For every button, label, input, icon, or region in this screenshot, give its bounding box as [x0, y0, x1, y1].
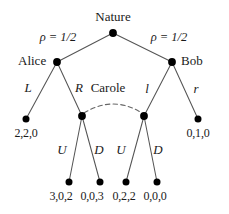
label-action-l: l [145, 82, 149, 95]
node-alice [53, 58, 61, 66]
label-action-R: R [75, 81, 83, 94]
payoff-alice-L: 2,2,0 [14, 127, 37, 139]
payoff-carole-right-U: 0,2,2 [112, 190, 135, 202]
node-bob [168, 58, 176, 66]
payoff-bob-r: 0,1,0 [186, 127, 209, 139]
terminal-node-carole-left-D [97, 179, 104, 186]
label-action-U-left: U [57, 143, 66, 156]
edge-carole-right-U [126, 116, 144, 182]
label-action-r: r [193, 82, 198, 95]
node-carole-left [78, 112, 86, 120]
payoff-carole-left-D: 0,0,3 [80, 190, 103, 202]
node-nature [109, 29, 117, 37]
information-set-arc [84, 104, 142, 113]
label-probability-left: ρ = 1/2 [40, 31, 77, 44]
edge-carole-left-U [69, 116, 82, 182]
terminal-node-carole-left-U [66, 179, 73, 186]
terminal-node-carole-right-D [154, 179, 161, 186]
terminal-node-alice-L [23, 116, 30, 123]
label-carole: Carole [91, 81, 126, 94]
tree-edges-and-nodes [0, 0, 229, 214]
label-action-L: L [24, 81, 31, 94]
label-nature: Nature [95, 10, 130, 23]
terminal-node-bob-r [195, 116, 202, 123]
terminal-node-carole-right-U [123, 179, 130, 186]
label-action-D-right: D [153, 143, 162, 156]
game-tree-figure: Nature ρ = 1/2 ρ = 1/2 Alice Bob Carole … [0, 0, 229, 214]
node-carole-right [140, 112, 148, 120]
payoff-carole-left-U: 3,0,2 [49, 190, 72, 202]
label-action-D-left: D [94, 143, 103, 156]
label-bob: Bob [181, 54, 203, 67]
label-probability-right: ρ = 1/2 [151, 31, 188, 44]
payoff-carole-right-D: 0,0,0 [143, 190, 166, 202]
label-action-U-right: U [116, 143, 125, 156]
label-alice: Alice [18, 54, 46, 67]
